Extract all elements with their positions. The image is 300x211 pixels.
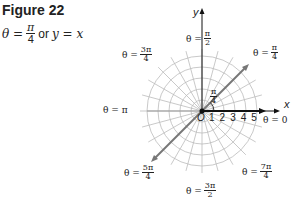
x-axis-arrow: [274, 109, 280, 114]
den: 4: [263, 172, 268, 180]
label-theta-pi-4: θ =π4: [253, 44, 278, 61]
x-axis-label: x: [284, 98, 290, 110]
tick-2: 2: [220, 112, 226, 123]
label-theta-pi-2: θ =π2: [186, 30, 211, 47]
angle-den: 4: [211, 97, 216, 105]
prefix: θ =: [253, 48, 269, 58]
label-theta-pi: θ = π: [103, 105, 128, 115]
den: 2: [205, 39, 210, 47]
origin-label: O: [197, 112, 205, 123]
prefix: θ =: [186, 186, 202, 196]
den: 4: [272, 53, 277, 61]
den: 4: [145, 173, 150, 181]
tick-5: 5: [251, 112, 257, 123]
y-axis-label: y: [193, 6, 199, 18]
prefix: θ =: [186, 34, 202, 44]
tick-3: 3: [230, 112, 236, 123]
angle-marker: π4: [210, 88, 217, 105]
prefix: θ =: [124, 168, 140, 178]
tick-4: 4: [241, 112, 247, 123]
den: 2: [207, 191, 212, 199]
label-theta-5pi-4: θ =5π4: [124, 164, 154, 181]
label-theta-3pi-2: θ =3π2: [186, 182, 216, 199]
label-theta-0: θ = 0: [263, 115, 287, 125]
prefix: θ =: [242, 167, 258, 177]
tick-1: 1: [209, 112, 215, 123]
y-axis-arrow: [200, 8, 205, 14]
label-theta-7pi-4: θ =7π4: [242, 163, 272, 180]
radial-ticks: 1 2 3 4 5: [209, 112, 257, 123]
den: 4: [143, 55, 148, 63]
label-theta-3pi-4: θ =3π4: [122, 46, 152, 63]
prefix: θ =: [122, 50, 138, 60]
